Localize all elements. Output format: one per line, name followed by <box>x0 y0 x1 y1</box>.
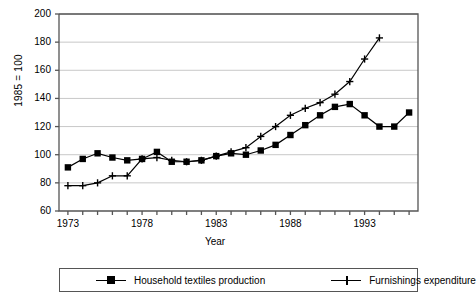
y-tick-label: 180 <box>11 36 51 47</box>
y-tick-label: 80 <box>11 177 51 188</box>
x-tick-label: 1978 <box>112 218 172 229</box>
legend-item-furnishings-expenditure: Furnishings expenditure <box>331 275 476 286</box>
legend-label: Household textiles production <box>134 275 265 286</box>
y-tick-label: 200 <box>11 8 51 19</box>
y-tick-label: 140 <box>11 92 51 103</box>
series-furnishings-expenditure <box>64 34 383 189</box>
series-household-textiles-production <box>65 101 413 171</box>
y-tick-label: 100 <box>11 149 51 160</box>
x-axis-title: Year <box>0 236 430 247</box>
x-tick-label: 1983 <box>186 218 246 229</box>
x-tick-label: 1988 <box>260 218 320 229</box>
y-tick-label: 60 <box>11 205 51 216</box>
y-tick-label: 120 <box>11 121 51 132</box>
plus-marker-icon <box>331 275 361 285</box>
x-tick-label: 1973 <box>38 218 98 229</box>
chart-legend: Household textiles production Furnishing… <box>59 268 418 292</box>
legend-label: Furnishings expenditure <box>369 275 476 286</box>
y-tick-label: 160 <box>11 64 51 75</box>
x-tick-label: 1993 <box>335 218 395 229</box>
square-marker-icon <box>96 275 126 285</box>
y-axis-title: 1985 = 100 <box>13 41 24 121</box>
axis-ticks <box>55 14 409 215</box>
legend-item-household-textiles-production: Household textiles production <box>96 275 265 286</box>
